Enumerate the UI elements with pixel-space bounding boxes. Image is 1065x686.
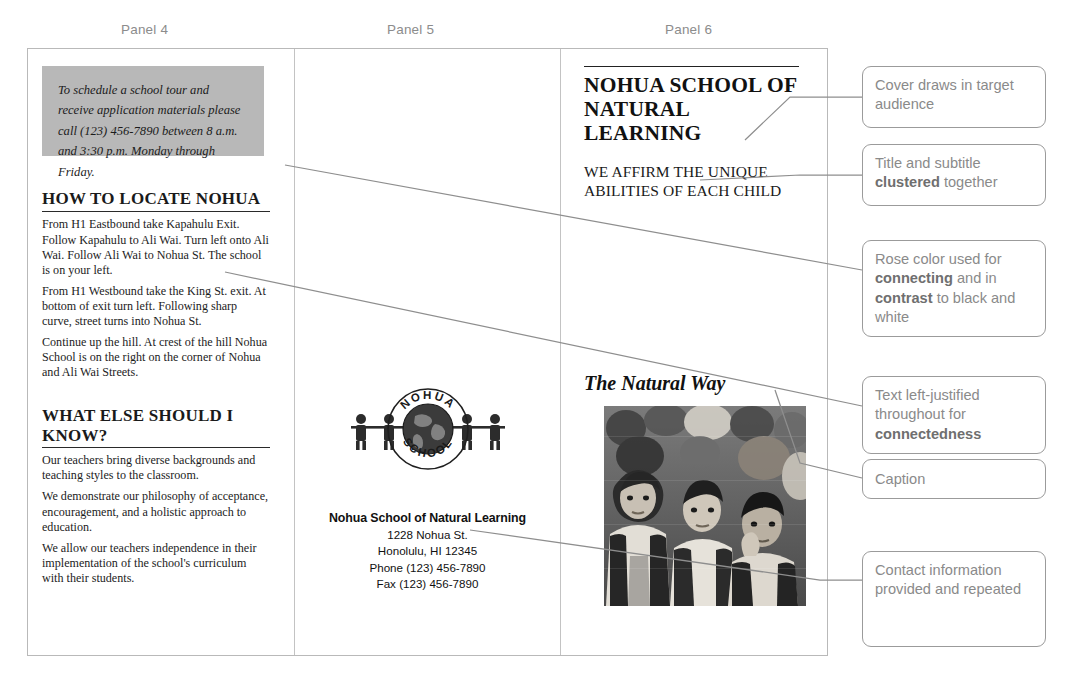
cover-title-block: NOHUA SCHOOL OF NATURAL LEARNING WE AFFI…: [584, 66, 799, 200]
contact-phone: Phone (123) 456-7890: [295, 560, 560, 576]
group-of-children-photo: [604, 406, 806, 606]
annotation-text-pre: Text left-justified throughout for: [875, 387, 980, 422]
schedule-tour-callout-box: To schedule a school tour and receive ap…: [42, 66, 264, 156]
annotation-text: Cover draws in target audience: [875, 77, 1014, 112]
panel-5: NOHUA SCHOOL Nohua School of Natural Lea…: [295, 49, 560, 655]
contact-city: Honolulu, HI 12345: [295, 543, 560, 559]
directions-paragraph-3: Continue up the hill. At crest of the hi…: [42, 335, 270, 380]
annotation-text: Contact information provided and repeate…: [875, 562, 1021, 597]
directions-paragraph-2: From H1 Westbound take the King St. exit…: [42, 284, 270, 329]
brochure-sheet: To schedule a school tour and receive ap…: [27, 48, 828, 656]
panel-label-5: Panel 5: [387, 22, 434, 37]
annotation-text-pre: Title and subtitle: [875, 155, 981, 171]
annotation-text-post: together: [940, 174, 998, 190]
annotation-text-pre-1: Rose color used for: [875, 251, 1002, 267]
annotation-contact-information: Contact information provided and repeate…: [862, 551, 1046, 647]
contact-org-name: Nohua School of Natural Learning: [295, 511, 560, 525]
contact-block: Nohua School of Natural Learning 1228 No…: [295, 511, 560, 593]
panel-4: To schedule a school tour and receive ap…: [28, 49, 294, 655]
brochure-subtitle: WE AFFIRM THE UNIQUE ABILITIES OF EACH C…: [584, 163, 799, 200]
callout-text: To schedule a school tour and receive ap…: [58, 80, 248, 182]
annotation-text-pre-2: and in: [953, 270, 997, 286]
photo-caption: The Natural Way: [584, 372, 726, 395]
contact-fax: Fax (123) 456-7890: [295, 576, 560, 592]
annotation-text-bold: clustered: [875, 174, 940, 190]
faq-paragraph-2: We demonstrate our philosophy of accepta…: [42, 489, 270, 534]
heading-how-to-locate: HOW TO LOCATE NOHUA: [42, 189, 270, 212]
title-rule: [584, 66, 799, 67]
panel-label-4: Panel 4: [121, 22, 168, 37]
annotation-title-and-subtitle: Title and subtitle clustered together: [862, 144, 1046, 206]
contact-street: 1228 Nohua St.: [295, 527, 560, 543]
annotation-cover-draws-in-audience: Cover draws in target audience: [862, 66, 1046, 128]
annotation-text-bold-1: connecting: [875, 270, 953, 286]
annotation-text: Caption: [875, 471, 925, 487]
section-spacer: [42, 380, 270, 406]
annotation-text-bold: connectedness: [875, 426, 981, 442]
logo-container: NOHUA SCHOOL: [295, 386, 560, 472]
annotation-caption: Caption: [862, 459, 1046, 499]
panel-label-6: Panel 6: [665, 22, 712, 37]
panel-4-body: HOW TO LOCATE NOHUA From H1 Eastbound ta…: [42, 189, 270, 586]
annotation-rose-color: Rose color used for connecting and in co…: [862, 240, 1046, 337]
panel-6: NOHUA SCHOOL OF NATURAL LEARNING WE AFFI…: [561, 49, 828, 655]
faq-paragraph-3: We allow our teachers independence in th…: [42, 541, 270, 586]
brochure-title: NOHUA SCHOOL OF NATURAL LEARNING: [584, 73, 799, 145]
faq-paragraph-1: Our teachers bring diverse backgrounds a…: [42, 453, 270, 483]
annotation-text-bold-2: contrast: [875, 290, 933, 306]
annotation-text-left-justified: Text left-justified throughout for conne…: [862, 376, 1046, 454]
heading-what-else-should-i-know: WHAT ELSE SHOULD I KNOW?: [42, 406, 270, 448]
nohua-school-seal-logo: NOHUA SCHOOL: [345, 386, 511, 472]
directions-paragraph-1: From H1 Eastbound take Kapahulu Exit. Fo…: [42, 217, 270, 277]
